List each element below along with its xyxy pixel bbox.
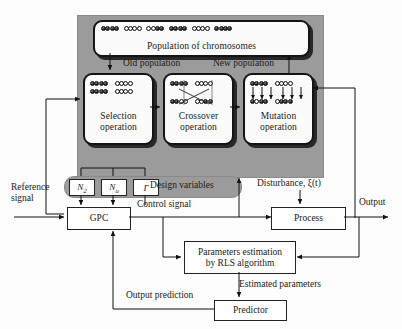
estimated-parameters-label: Estimated parameters <box>239 279 321 290</box>
gene-dot <box>103 89 108 94</box>
gene-dot <box>159 26 164 31</box>
chromosome <box>169 26 187 31</box>
chromosome <box>146 26 164 31</box>
new-population-label: New population <box>213 58 274 69</box>
chromosome <box>90 89 108 94</box>
chromosome-pair-row <box>90 81 132 86</box>
chromosome <box>124 26 142 31</box>
design-variable-n2-label: N2 <box>77 182 86 194</box>
mutation-operation-label-line1: Mutation <box>245 111 312 122</box>
block-diagram: Population of chromosomes Old population… <box>0 0 402 329</box>
gpc-label: GPC <box>90 213 108 224</box>
chromosome <box>214 26 232 31</box>
chromosome-pair-row <box>90 89 132 94</box>
gene-dot <box>128 89 133 94</box>
population-of-chromosomes-box: Population of chromosomes <box>93 20 310 57</box>
gene-dot <box>103 81 108 86</box>
selection-chromosomes <box>90 81 132 97</box>
population-box-label: Population of chromosomes <box>95 41 308 52</box>
population-chromosome-row <box>101 26 232 31</box>
gene-dot <box>227 26 232 31</box>
design-variable-gamma-label: Γ <box>143 183 148 193</box>
predictor-block[interactable]: Predictor <box>214 300 287 321</box>
mutation-operation-box: Mutation operation <box>243 73 314 145</box>
estimator-label-line1: Parameters estimation <box>198 247 282 258</box>
selection-operation-box: Selection operation <box>83 73 154 145</box>
mutation-arrows <box>245 75 312 143</box>
design-variables-label: Design variables <box>150 180 214 190</box>
crossover-cross-lines <box>165 75 232 143</box>
output-prediction-label: Output prediction <box>126 290 193 301</box>
disturbance-label: Disturbance, ξ(t) <box>257 178 321 189</box>
process-label: Process <box>294 213 323 224</box>
gpc-block[interactable]: GPC <box>67 207 131 230</box>
output-label: Output <box>359 197 385 208</box>
gene-dot <box>182 26 187 31</box>
gene-dot <box>205 26 210 31</box>
gene-dot <box>137 26 142 31</box>
crossover-operation-label-line2: operation <box>165 122 232 133</box>
design-variable-nu-label: Nu <box>109 182 118 194</box>
design-variable-n2-box[interactable]: N2 <box>69 179 95 196</box>
process-block[interactable]: Process <box>271 207 346 230</box>
design-variable-nu-box[interactable]: Nu <box>101 179 127 196</box>
selection-operation-label-line1: Selection <box>85 111 152 122</box>
chromosome <box>115 89 133 94</box>
chromosome <box>115 81 133 86</box>
gene-dot <box>114 26 119 31</box>
crossover-operation-box: Crossover operation <box>163 73 234 145</box>
mutation-operation-label-line2: operation <box>245 122 312 133</box>
old-population-label: Old population <box>123 58 180 69</box>
reference-signal-label-line1: Reference <box>11 182 50 193</box>
chromosome <box>101 26 119 31</box>
parameters-estimation-block[interactable]: Parameters estimation by RLS algorithm <box>184 241 296 274</box>
predictor-label: Predictor <box>233 305 268 316</box>
control-signal-label: Control signal <box>137 199 191 210</box>
crossover-operation-label-line1: Crossover <box>165 111 232 122</box>
chromosome <box>192 26 210 31</box>
selection-operation-label-line2: operation <box>85 122 152 133</box>
reference-signal-label-line2: signal <box>11 193 34 204</box>
estimator-label-line2: by RLS algorithm <box>206 258 275 269</box>
gene-dot <box>128 81 133 86</box>
chromosome <box>90 81 108 86</box>
